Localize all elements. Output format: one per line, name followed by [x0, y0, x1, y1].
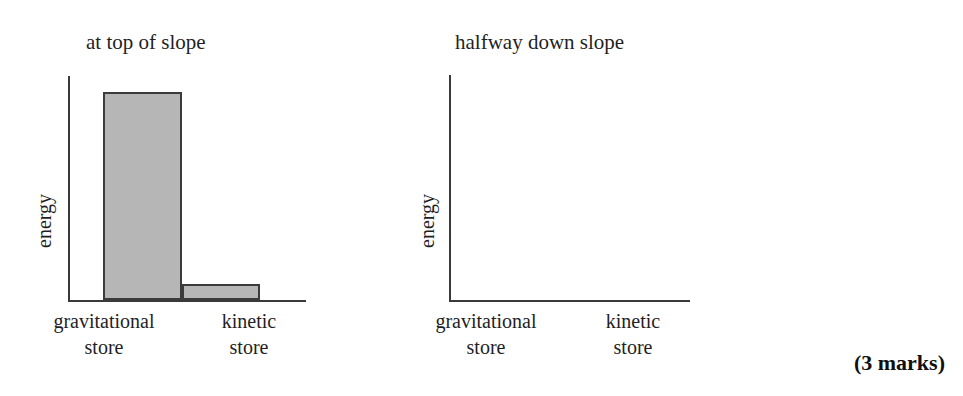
x-axis-category-gravitational-store-right: gravitational store	[398, 308, 574, 360]
chart-panel-halfway-down-slope: halfway down slope energy gravitational …	[400, 0, 963, 396]
x-axis-line-left	[68, 300, 306, 302]
bar-kinetic-store-at-top	[182, 284, 260, 300]
bar-gravitational-store-at-top	[103, 92, 182, 300]
x-axis-category-kinetic-store-right: kinetic store	[568, 308, 698, 360]
x-axis-category-gravitational-store-left: gravitational store	[16, 308, 192, 360]
chart-title-halfway-down-slope: halfway down slope	[455, 32, 624, 53]
category-label-line2: store	[568, 334, 698, 360]
category-label-line2: store	[398, 334, 574, 360]
category-label-line2: store	[184, 334, 314, 360]
plot-area-right-empty	[451, 76, 690, 300]
category-label-line2: store	[16, 334, 192, 360]
energy-stores-bar-chart-figure: at top of slope energy gravitational sto…	[0, 0, 963, 396]
marks-allocation-note: (3 marks)	[854, 352, 945, 374]
chart-panel-at-top-of-slope: at top of slope energy gravitational sto…	[0, 0, 400, 396]
category-label-line1: kinetic	[184, 308, 314, 334]
chart-title-at-top-of-slope: at top of slope	[86, 32, 206, 53]
y-axis-label-energy-right: energy	[417, 194, 437, 248]
category-label-line1: kinetic	[568, 308, 698, 334]
x-axis-category-kinetic-store-left: kinetic store	[184, 308, 314, 360]
plot-area-left	[70, 76, 306, 300]
category-label-line1: gravitational	[16, 308, 192, 334]
category-label-line1: gravitational	[398, 308, 574, 334]
y-axis-label-energy-left: energy	[34, 194, 54, 248]
x-axis-line-right	[449, 300, 690, 302]
